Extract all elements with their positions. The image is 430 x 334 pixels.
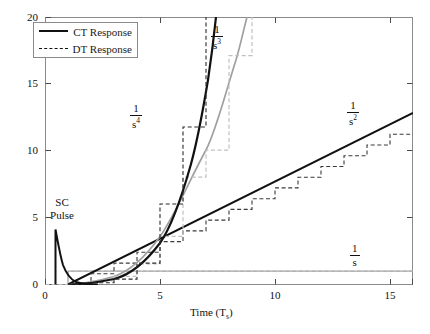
legend-label-dt-response: DT Response [73,43,132,55]
x-axis-title-tail: ) [229,306,233,318]
annotation-sc-pulse-line1: SC [55,196,68,208]
annotation-one-over-s3-denominator: s3 [211,38,223,51]
chart-figure: 0 5 10 15 20 0 5 10 15 Time (Ts) CT Resp… [0,0,430,334]
annotation-one-over-s3-exponent: 3 [217,37,221,46]
annotation-sc-pulse-line2: Pulse [50,209,74,221]
annotation-one-over-s2-denominator: s2 [347,114,359,127]
annotation-one-over-s-numerator: 1 [350,243,360,254]
annotation-one-over-s3: 1 s3 [211,24,223,53]
x-tick-label-15: 15 [377,289,403,301]
legend-item-ct-response: CT Response [34,23,137,40]
annotation-one-over-s3-numerator: 1 [211,24,223,35]
annotation-one-over-s-denominator: s [350,257,360,268]
y-tick-label-10: 10 [12,144,38,156]
annotation-one-over-s4-numerator: 1 [130,103,142,114]
annotation-sc-pulse: SC Pulse [39,196,85,221]
legend-key-solid-line [39,30,68,33]
x-axis-title-main: Time (T [190,306,226,318]
annotation-one-over-s4: 1 s4 [130,103,142,132]
legend-item-dt-response: DT Response [34,40,137,57]
x-tick-label-10: 10 [262,289,288,301]
legend-key-dashed-line [39,48,68,49]
y-tick-label-15: 15 [12,77,38,89]
x-tick-label-5: 5 [147,289,173,301]
legend-label-ct-response: CT Response [73,26,132,38]
chart-legend: CT Response DT Response [33,22,138,58]
annotation-one-over-s2-exponent: 2 [353,113,357,122]
y-tick-label-5: 5 [12,211,38,223]
annotation-one-over-s4-denominator: s4 [130,117,142,130]
annotation-one-over-s: 1 s [350,243,360,270]
x-tick-label-0: 0 [32,289,58,301]
annotation-one-over-s2-numerator: 1 [347,100,359,111]
annotation-one-over-s2: 1 s2 [347,100,359,129]
x-axis-title: Time (Ts) [190,306,233,321]
annotation-one-over-s4-exponent: 4 [136,116,140,125]
